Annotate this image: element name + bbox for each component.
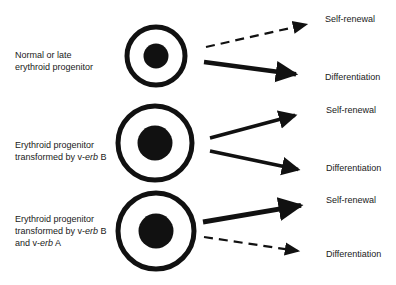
arrow-verbBA-self-renewal [203,205,301,222]
outcome-label-differentiation: Differentiation [326,163,381,174]
arrow-normal-self-renewal [206,25,306,48]
label-text: A [53,238,61,248]
cell-normal [127,27,185,85]
outcome-label-self-renewal: Self-renewal [325,14,375,25]
label-text: transformed by v- [15,152,85,162]
cell-verbBA [118,193,194,269]
label-line: Erythroid progenitor [15,139,107,151]
label-text: and v- [15,238,40,248]
row-label-verbB: Erythroid progenitor transformed by v-er… [15,139,107,163]
cell-nucleus-icon [144,44,169,69]
outcome-label-self-renewal: Self-renewal [326,195,376,206]
gene-name-italic: erb [85,226,98,236]
row-label-verbBA: Erythroid progenitor transformed by v-er… [15,213,107,249]
label-line: Erythroid progenitor [15,213,107,225]
label-line: Normal or late [15,49,93,61]
gene-name-italic: erb [85,152,98,162]
label-text: B [98,226,107,236]
arrow-verbB-self-renewal [210,115,295,138]
cell-nucleus-icon [138,126,173,161]
arrow-verbBA-differentiation [204,237,298,251]
label-text: transformed by v- [15,226,85,236]
label-line: transformed by v-erb B [15,151,107,163]
outcome-label-differentiation: Differentiation [326,249,381,260]
outcome-label-differentiation: Differentiation [325,72,380,83]
outcome-label-self-renewal: Self-renewal [326,105,376,116]
label-line: transformed by v-erb B [15,225,107,237]
cell-nucleus-icon [139,214,174,249]
gene-name-italic: erb [40,238,53,248]
label-text: B [98,152,107,162]
arrow-normal-differentiation [204,62,296,74]
arrow-verbB-differentiation [210,151,298,170]
label-line: erythroid progenitor [15,61,93,73]
cell-verbB [118,106,192,180]
row-label-normal: Normal or late erythroid progenitor [15,49,93,73]
label-line: and v-erb A [15,237,107,249]
